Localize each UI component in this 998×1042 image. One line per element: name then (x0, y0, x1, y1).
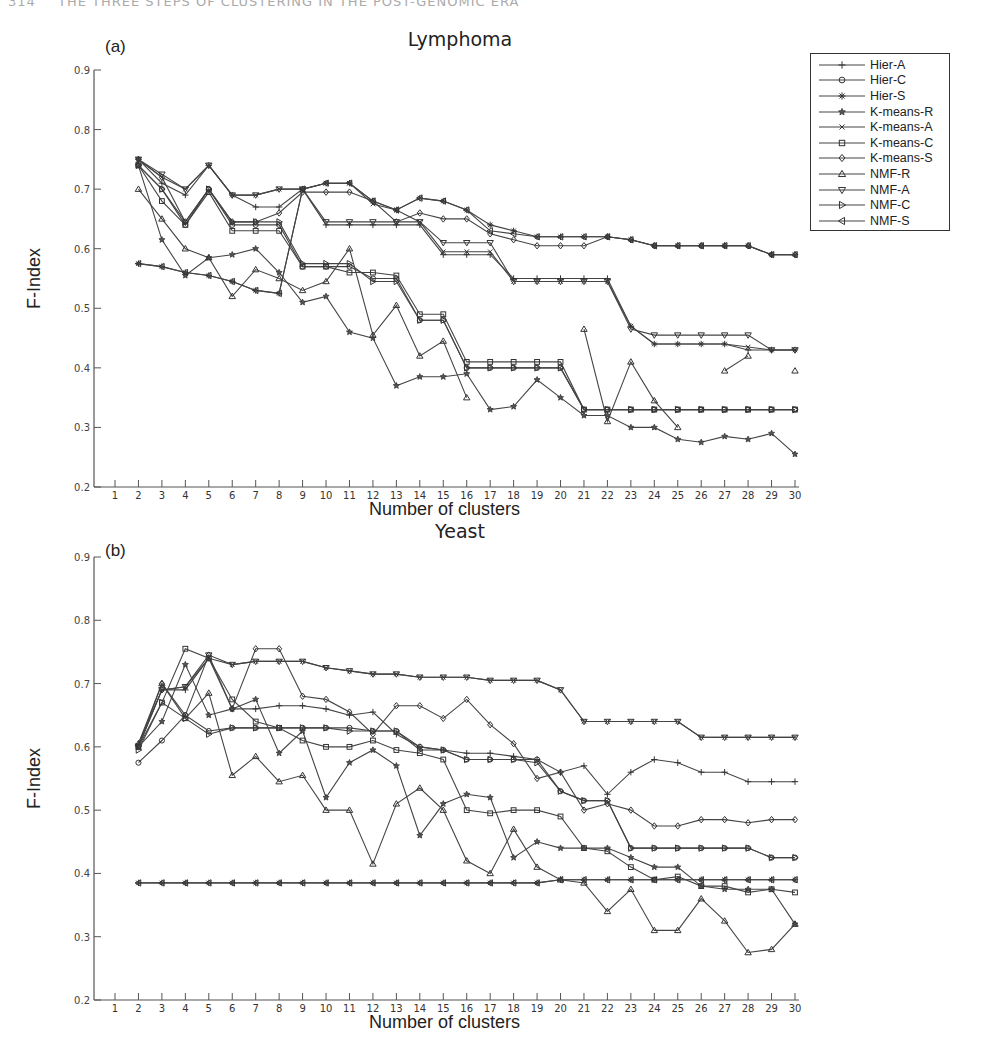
diamond-marker-icon (817, 151, 867, 165)
x-tick-label: 9 (299, 490, 305, 501)
plus-marker-icon (817, 58, 867, 72)
x-tick-label: 26 (695, 1003, 708, 1014)
x-tick-label: 10 (320, 1003, 333, 1014)
triangle-left-marker-icon (817, 214, 867, 228)
legend-label: NMF-A (870, 183, 910, 197)
series-nmf-s (135, 180, 797, 297)
legend-item-nmf-s: NMF-S (811, 213, 949, 229)
x-tick-label: 3 (159, 1003, 165, 1014)
legend-item-k-means-c: K-means-C (811, 135, 949, 151)
y-tick-label: 0.9 (74, 65, 90, 76)
chart-panel-a: 0.20.30.40.50.60.70.80.91234567891011121… (24, 28, 801, 519)
y-tick-label: 0.2 (74, 482, 90, 493)
panel-label: (a) (105, 37, 126, 56)
x-marker-icon (817, 120, 867, 134)
triangle-right-marker-icon (817, 198, 867, 212)
x-tick-label: 22 (601, 490, 614, 501)
x-tick-label: 29 (765, 1003, 778, 1014)
x-tick-label: 6 (229, 1003, 235, 1014)
x-tick-label: 23 (624, 490, 637, 501)
legend-label: K-means-A (870, 120, 933, 134)
x-tick-label: 2 (135, 490, 141, 501)
x-tick-label: 5 (206, 490, 212, 501)
x-tick-label: 11 (343, 490, 356, 501)
y-tick-label: 0.8 (74, 125, 90, 136)
legend-label: NMF-S (870, 214, 910, 228)
x-tick-label: 28 (742, 1003, 755, 1014)
series-nmf-r (135, 680, 798, 954)
x-tick-label: 19 (531, 1003, 544, 1014)
legend-label: K-means-C (870, 136, 933, 150)
x-tick-label: 25 (671, 1003, 684, 1014)
legend-item-nmf-c: NMF-C (811, 197, 949, 213)
x-axis-label: Number of clusters (369, 1012, 520, 1032)
triangle-up-marker-icon (817, 167, 867, 181)
y-tick-label: 0.6 (74, 742, 90, 753)
x-tick-label: 27 (718, 490, 731, 501)
x-tick-label: 22 (601, 1003, 614, 1014)
x-tick-label: 7 (253, 490, 259, 501)
x-axis-label: Number of clusters (369, 499, 520, 519)
legend-item-k-means-a: K-means-A (811, 119, 949, 135)
x-tick-label: 23 (624, 1003, 637, 1014)
x-tick-label: 6 (229, 490, 235, 501)
panel-label: (b) (105, 541, 126, 560)
legend-label: NMF-R (870, 167, 910, 181)
y-tick-label: 0.7 (74, 184, 90, 195)
x-tick-label: 2 (135, 1003, 141, 1014)
y-axis-label: F-Index (24, 248, 44, 309)
legend-item-k-means-r: K-means-R (811, 104, 949, 120)
x-tick-label: 21 (578, 490, 591, 501)
legend-label: NMF-C (870, 198, 910, 212)
chart-title: Yeast (434, 520, 485, 542)
series-k-means-s (136, 646, 798, 830)
x-tick-label: 27 (718, 1003, 731, 1014)
asterisk-marker-icon (817, 89, 867, 103)
x-tick-label: 21 (578, 1003, 591, 1014)
triangle-down-marker-icon (817, 183, 867, 197)
y-tick-label: 0.5 (74, 805, 90, 816)
legend-label: Hier-C (870, 73, 906, 87)
y-tick-label: 0.3 (74, 932, 90, 943)
legend-item-hier-c: Hier-C (811, 73, 949, 89)
chart-panel-b: 0.20.30.40.50.60.70.80.91234567891011121… (24, 520, 801, 1032)
y-axis-label: F-Index (24, 748, 44, 809)
legend-item-nmf-r: NMF-R (811, 166, 949, 182)
y-tick-label: 0.3 (74, 422, 90, 433)
square-marker-icon (817, 136, 867, 150)
legend-item-nmf-a: NMF-A (811, 182, 949, 198)
x-tick-label: 1 (112, 490, 118, 501)
legend-item-hier-a: Hier-A (811, 57, 949, 73)
legend-label: K-means-R (870, 105, 933, 119)
x-tick-label: 28 (742, 490, 755, 501)
x-tick-label: 4 (182, 490, 188, 501)
y-tick-label: 0.5 (74, 303, 90, 314)
x-tick-label: 8 (276, 1003, 282, 1014)
x-tick-label: 26 (695, 490, 708, 501)
x-tick-label: 4 (182, 1003, 188, 1014)
x-tick-label: 1 (112, 1003, 118, 1014)
x-tick-label: 10 (320, 490, 333, 501)
x-tick-label: 30 (789, 1003, 802, 1014)
x-tick-label: 8 (276, 490, 282, 501)
x-tick-label: 20 (554, 1003, 567, 1014)
x-tick-label: 11 (343, 1003, 356, 1014)
x-tick-label: 19 (531, 490, 544, 501)
legend-item-k-means-s: K-means-S (811, 151, 949, 167)
x-tick-label: 24 (648, 490, 661, 501)
x-tick-label: 30 (789, 490, 802, 501)
series-nmf-c (136, 699, 798, 860)
y-tick-label: 0.4 (74, 868, 90, 879)
x-tick-label: 29 (765, 490, 778, 501)
x-tick-label: 9 (299, 1003, 305, 1014)
x-tick-label: 24 (648, 1003, 661, 1014)
x-tick-label: 20 (554, 490, 567, 501)
x-tick-label: 25 (671, 490, 684, 501)
x-tick-label: 7 (253, 1003, 259, 1014)
x-tick-label: 5 (206, 1003, 212, 1014)
y-tick-label: 0.9 (74, 552, 90, 563)
x-tick-label: 3 (159, 490, 165, 501)
y-tick-label: 0.2 (74, 995, 90, 1006)
legend-item-hier-s: Hier-S (811, 88, 949, 104)
circle-marker-icon (817, 73, 867, 87)
